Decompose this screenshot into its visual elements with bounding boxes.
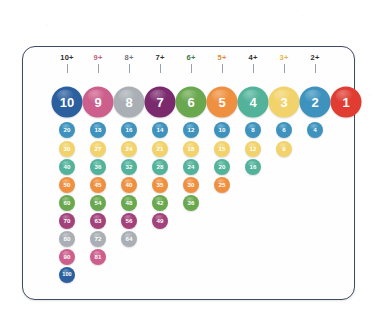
bubble-2x-20[interactable]: 20 (59, 122, 75, 138)
bubble-value: 54 (95, 200, 102, 206)
bubble-4x-36[interactable]: 36 (90, 159, 106, 175)
bubble-value: 50 (64, 182, 71, 188)
bubble-2x-10[interactable]: 10 (214, 122, 230, 138)
bubble-9x-81[interactable]: 81 (90, 249, 106, 265)
bubble-3x-12[interactable]: 12 (245, 141, 261, 157)
bubble-value: 10 (60, 96, 74, 109)
bubble-value: 27 (95, 146, 102, 152)
bubble-5x-50[interactable]: 50 (59, 177, 75, 193)
bubble-value: 20 (64, 127, 71, 133)
header-bubble-9[interactable]: 9 (83, 87, 114, 118)
bubble-10x-100[interactable]: 100 (59, 267, 75, 283)
bubble-value: 25 (219, 182, 226, 188)
bubble-value: 30 (188, 182, 195, 188)
bubble-value: 2 (311, 96, 318, 109)
header-bubble-6[interactable]: 6 (176, 87, 207, 118)
bubble-value: 24 (188, 164, 195, 170)
bubble-5x-45[interactable]: 45 (90, 177, 106, 193)
bubble-value: 16 (250, 164, 257, 170)
bubble-2x-8[interactable]: 8 (245, 122, 261, 138)
bubble-value: 56 (126, 218, 133, 224)
bubble-3x-15[interactable]: 15 (214, 141, 230, 157)
bubble-5x-30[interactable]: 30 (183, 177, 199, 193)
bubble-2x-6[interactable]: 6 (276, 122, 292, 138)
bubble-3x-9[interactable]: 9 (276, 141, 292, 157)
bubble-value: 4 (249, 96, 256, 109)
bubble-2x-16[interactable]: 16 (121, 122, 137, 138)
bubble-3x-18[interactable]: 18 (183, 141, 199, 157)
header-bubble-10[interactable]: 10 (52, 87, 83, 118)
bubble-value: 9 (94, 96, 101, 109)
bubble-value: 10 (219, 127, 226, 133)
bubble-3x-30[interactable]: 30 (59, 141, 75, 157)
bubble-value: 6 (282, 127, 285, 133)
bubble-value: 14 (157, 127, 164, 133)
bubble-6x-36[interactable]: 36 (183, 195, 199, 211)
header-bubble-3[interactable]: 3 (269, 87, 300, 118)
bubble-value: 3 (280, 96, 287, 109)
bubble-value: 42 (157, 200, 164, 206)
bubble-value: 70 (64, 218, 71, 224)
bubble-value: 40 (64, 164, 71, 170)
bubble-5x-35[interactable]: 35 (152, 177, 168, 193)
header-bubble-8[interactable]: 8 (114, 87, 145, 118)
bubble-value: 24 (126, 146, 133, 152)
bubble-value: 80 (64, 236, 71, 242)
bubble-2x-18[interactable]: 18 (90, 122, 106, 138)
bubble-value: 7 (156, 96, 163, 109)
header-bubble-4[interactable]: 4 (238, 87, 269, 118)
bubble-value: 6 (187, 96, 194, 109)
bubble-value: 36 (95, 164, 102, 170)
bubble-value: 12 (188, 127, 195, 133)
bubble-value: 60 (64, 200, 71, 206)
bubble-value: 5 (218, 96, 225, 109)
bubble-grid: 1098765432120181614121086430272421181512… (23, 47, 354, 299)
bubble-value: 15 (219, 146, 226, 152)
bubble-value: 49 (157, 218, 164, 224)
bubble-8x-64[interactable]: 64 (121, 231, 137, 247)
bubble-4x-24[interactable]: 24 (183, 159, 199, 175)
bubble-9x-90[interactable]: 90 (59, 249, 75, 265)
bubble-value: 63 (95, 218, 102, 224)
bubble-value: 32 (126, 164, 133, 170)
bubble-7x-49[interactable]: 49 (152, 213, 168, 229)
header-bubble-7[interactable]: 7 (145, 87, 176, 118)
bubble-value: 21 (157, 146, 164, 152)
bubble-4x-16[interactable]: 16 (245, 159, 261, 175)
bubble-8x-72[interactable]: 72 (90, 231, 106, 247)
bubble-value: 48 (126, 200, 133, 206)
bubble-3x-24[interactable]: 24 (121, 141, 137, 157)
bubble-4x-40[interactable]: 40 (59, 159, 75, 175)
bubble-value: 72 (95, 236, 102, 242)
bubble-2x-14[interactable]: 14 (152, 122, 168, 138)
bubble-6x-48[interactable]: 48 (121, 195, 137, 211)
bubble-6x-60[interactable]: 60 (59, 195, 75, 211)
bubble-4x-32[interactable]: 32 (121, 159, 137, 175)
bubble-6x-54[interactable]: 54 (90, 195, 106, 211)
bubble-value: 20 (219, 164, 226, 170)
bubble-value: 18 (188, 146, 195, 152)
header-bubble-2[interactable]: 2 (300, 87, 331, 118)
bubble-5x-25[interactable]: 25 (214, 177, 230, 193)
header-bubble-5[interactable]: 5 (207, 87, 238, 118)
bubble-value: 45 (95, 182, 102, 188)
bubble-value: 36 (188, 200, 195, 206)
bubble-5x-40[interactable]: 40 (121, 177, 137, 193)
bubble-4x-20[interactable]: 20 (214, 159, 230, 175)
bubble-7x-70[interactable]: 70 (59, 213, 75, 229)
bubble-value: 12 (250, 146, 257, 152)
bubble-7x-63[interactable]: 63 (90, 213, 106, 229)
bubble-value: 1 (342, 96, 349, 109)
bubble-2x-4[interactable]: 4 (307, 122, 323, 138)
multiplication-table-card: 10+9+8+7+6+5+4+3+2+ 10987654321201816141… (22, 46, 355, 300)
bubble-value: 100 (62, 272, 71, 278)
bubble-7x-56[interactable]: 56 (121, 213, 137, 229)
bubble-6x-42[interactable]: 42 (152, 195, 168, 211)
bubble-3x-27[interactable]: 27 (90, 141, 106, 157)
bubble-8x-80[interactable]: 80 (59, 231, 75, 247)
header-bubble-1[interactable]: 1 (331, 87, 362, 118)
bubble-3x-21[interactable]: 21 (152, 141, 168, 157)
bubble-2x-12[interactable]: 12 (183, 122, 199, 138)
bubble-4x-28[interactable]: 28 (152, 159, 168, 175)
bubble-value: 16 (126, 127, 133, 133)
